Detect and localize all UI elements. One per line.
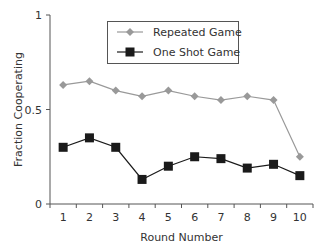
square-marker bbox=[216, 154, 225, 163]
diamond-marker bbox=[243, 92, 251, 100]
x-tick-label: 5 bbox=[165, 211, 172, 224]
square-marker bbox=[138, 175, 147, 184]
x-tick-label: 4 bbox=[139, 211, 146, 224]
diamond-marker bbox=[191, 92, 199, 100]
y-tick-label: 0.5 bbox=[25, 104, 43, 117]
diamond-marker bbox=[112, 87, 120, 95]
square-marker bbox=[164, 162, 173, 171]
diamond-marker bbox=[217, 96, 225, 104]
legend: Repeated GameOne Shot Game bbox=[108, 22, 242, 64]
series-repeated-game bbox=[59, 77, 304, 161]
square-marker bbox=[243, 164, 252, 173]
square-marker bbox=[190, 152, 199, 161]
legend-label: One Shot Game bbox=[153, 46, 240, 59]
square-marker bbox=[85, 133, 94, 142]
diamond-marker bbox=[164, 87, 172, 95]
legend-square-icon bbox=[126, 48, 135, 57]
y-axis-title: Fraction Cooperating bbox=[12, 52, 25, 167]
y-tick-label: 1 bbox=[35, 9, 42, 22]
line-chart: 00.5112345678910Round NumberFraction Coo… bbox=[0, 0, 325, 249]
x-tick-label: 9 bbox=[270, 211, 277, 224]
y-tick-label: 0 bbox=[35, 198, 42, 211]
series-line bbox=[63, 81, 300, 157]
x-tick-label: 1 bbox=[60, 211, 67, 224]
x-axis-title: Round Number bbox=[140, 231, 223, 244]
x-tick-label: 2 bbox=[86, 211, 93, 224]
x-tick-label: 10 bbox=[293, 211, 307, 224]
diamond-marker bbox=[296, 153, 304, 161]
x-tick-label: 7 bbox=[217, 211, 224, 224]
series-one-shot-game bbox=[59, 133, 305, 184]
diamond-marker bbox=[59, 81, 67, 89]
x-tick-label: 3 bbox=[112, 211, 119, 224]
series-line bbox=[63, 138, 300, 180]
square-marker bbox=[111, 143, 120, 152]
plot-area: 00.5112345678910Round NumberFraction Coo… bbox=[12, 9, 313, 244]
square-marker bbox=[59, 143, 68, 152]
square-marker bbox=[269, 160, 278, 169]
x-tick-label: 6 bbox=[191, 211, 198, 224]
legend-label: Repeated Game bbox=[153, 26, 242, 39]
x-tick-label: 8 bbox=[244, 211, 251, 224]
diamond-marker bbox=[270, 96, 278, 104]
diamond-marker bbox=[138, 92, 146, 100]
diamond-marker bbox=[85, 77, 93, 85]
square-marker bbox=[295, 171, 304, 180]
